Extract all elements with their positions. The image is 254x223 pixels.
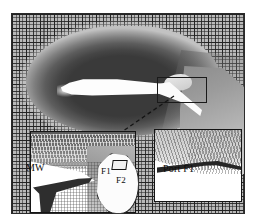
wing-nose-highlight [57, 84, 79, 97]
label-flap-f1: F1 [101, 167, 111, 176]
flap-f1-glyph [111, 160, 127, 170]
figure-root: MW F1 F2 Port F1 [0, 0, 254, 223]
label-port-flap: Port F1 [163, 164, 194, 174]
label-flap-f2: F2 [116, 176, 126, 185]
callout-box [157, 77, 207, 103]
label-main-wing: MW [26, 163, 45, 173]
